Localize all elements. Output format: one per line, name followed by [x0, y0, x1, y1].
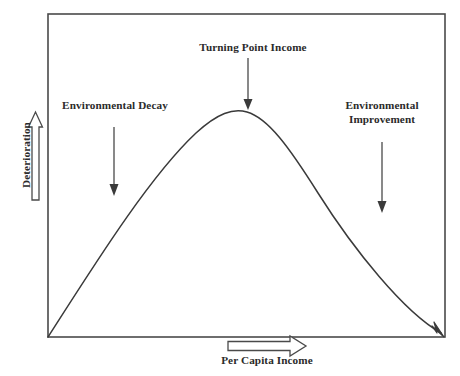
environmental-decay-arrow-icon — [110, 127, 119, 196]
x-axis-label: Per Capita Income — [200, 353, 334, 367]
chart-graphics — [0, 0, 460, 376]
turning-point-arrow-icon — [244, 58, 253, 110]
plot-frame — [48, 14, 445, 337]
curve-arrowhead-icon — [432, 322, 444, 337]
y-axis-label: Deterioration — [19, 103, 33, 207]
chart-figure: Turning Point Income Environmental Decay… — [0, 0, 460, 376]
annotation-label-environmental-decay: Environmental Decay — [62, 98, 168, 112]
environmental-improvement-arrow-icon — [378, 142, 387, 213]
annotation-label-environmental-improvement-line1: Environmental — [345, 99, 418, 111]
annotation-label-turning-point: Turning Point Income — [193, 40, 313, 54]
annotation-label-environmental-improvement: EnvironmentalImprovement — [336, 98, 428, 126]
annotation-label-environmental-improvement-line2: Improvement — [349, 113, 415, 125]
